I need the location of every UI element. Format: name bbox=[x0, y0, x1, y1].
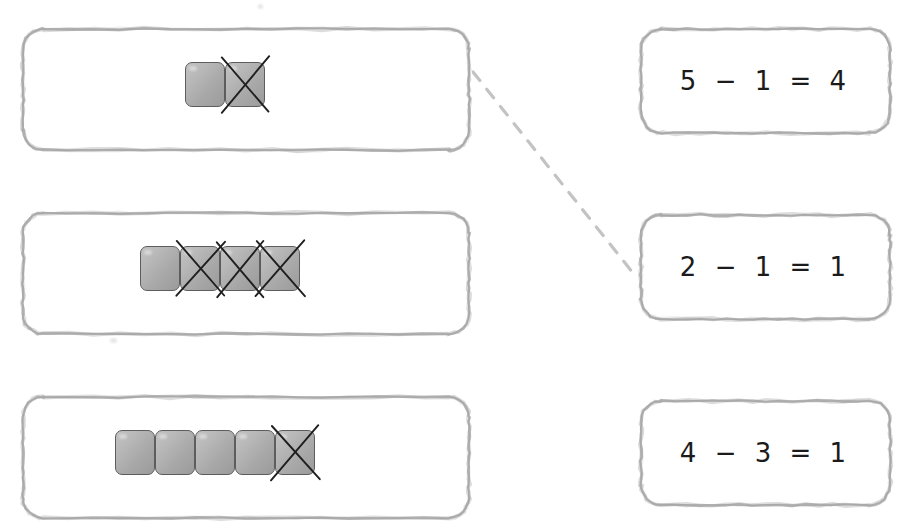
scan-artifact bbox=[258, 4, 263, 9]
block-group bbox=[185, 62, 265, 107]
equation-text: 4 − 3 = 1 bbox=[638, 438, 893, 468]
block-group bbox=[140, 246, 300, 291]
scan-artifact bbox=[110, 338, 117, 343]
blocks-panel-2-minus-1[interactable] bbox=[20, 26, 472, 153]
unit-block-face bbox=[185, 62, 225, 107]
unit-block-face bbox=[260, 246, 300, 291]
equation-4-minus-3-equals-1[interactable]: 4 − 3 = 1 bbox=[638, 398, 893, 508]
equation-text: 5 − 1 = 4 bbox=[638, 66, 893, 96]
unit-block bbox=[180, 246, 220, 291]
equation-2-minus-1-equals-1[interactable]: 2 − 1 = 1 bbox=[638, 212, 893, 322]
unit-block bbox=[155, 430, 195, 475]
unit-block-face bbox=[235, 430, 275, 475]
unit-block bbox=[225, 62, 265, 107]
equation-text: 2 − 1 = 1 bbox=[638, 252, 893, 282]
unit-block-face bbox=[220, 246, 260, 291]
blocks-panel-4-minus-3[interactable] bbox=[20, 210, 472, 337]
unit-block-side-tab bbox=[313, 436, 328, 469]
unit-block bbox=[235, 430, 275, 475]
unit-block bbox=[220, 246, 260, 291]
unit-block bbox=[140, 246, 180, 291]
unit-block bbox=[275, 430, 315, 475]
unit-block-face bbox=[275, 430, 315, 475]
block-group bbox=[115, 430, 315, 475]
unit-block-face bbox=[115, 430, 155, 475]
unit-block-face bbox=[180, 246, 220, 291]
unit-block bbox=[115, 430, 155, 475]
unit-block-side-tab bbox=[298, 252, 313, 285]
unit-block-face bbox=[140, 246, 180, 291]
equation-5-minus-1-equals-4[interactable]: 5 − 1 = 4 bbox=[638, 26, 893, 136]
unit-block-face bbox=[225, 62, 265, 107]
unit-block-face bbox=[155, 430, 195, 475]
unit-block bbox=[185, 62, 225, 107]
unit-block-face bbox=[195, 430, 235, 475]
match-line-panel1-to-equation2[interactable] bbox=[473, 72, 637, 278]
unit-block-side-tab bbox=[263, 68, 278, 101]
blocks-panel-5-minus-1[interactable] bbox=[20, 394, 472, 521]
unit-block bbox=[195, 430, 235, 475]
unit-block bbox=[260, 246, 300, 291]
worksheet-canvas: 5 − 1 = 4 2 − 1 = 1 4 − 3 = 1 bbox=[0, 0, 910, 531]
